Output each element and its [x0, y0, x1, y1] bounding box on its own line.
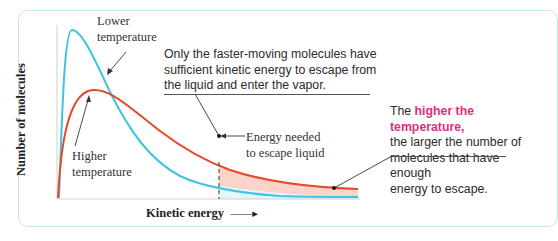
- right-callout-dot: [332, 186, 336, 190]
- right-callout-rule: [392, 156, 506, 157]
- callout-prefix: The: [390, 104, 415, 118]
- callout-line: the larger the number of: [390, 135, 534, 151]
- right-arrow-icon: ——▸: [230, 207, 258, 219]
- label-line: temperature: [72, 164, 132, 180]
- higher-temp-arrowhead: [86, 95, 91, 102]
- right-callout: The higher the temperature, the larger t…: [390, 104, 534, 197]
- x-axis-label-text: Kinetic energy: [146, 206, 224, 220]
- label-line: temperature: [97, 29, 157, 45]
- label-line: Energy needed: [246, 129, 324, 145]
- callout-line: the liquid and enter the vapor.: [164, 78, 377, 94]
- callout-line: Only the faster-moving molecules have: [164, 47, 377, 63]
- higher-temp-pointer: [75, 100, 88, 146]
- top-callout-pointer: [195, 94, 219, 136]
- energy-needed-label: Energy needed to escape liquid: [246, 129, 324, 161]
- higher-temperature-label: Higher temperature: [72, 148, 132, 180]
- x-axis-label: Kinetic energy ——▸: [146, 206, 258, 221]
- label-line: Higher: [72, 148, 132, 164]
- label-line: to escape liquid: [246, 145, 324, 161]
- lower-temperature-label: Lower temperature: [97, 13, 157, 45]
- right-callout-pointer: [334, 156, 392, 188]
- lower-temp-pointer: [109, 52, 126, 72]
- callout-line: The higher the temperature,: [390, 104, 534, 135]
- top-callout-rule: [164, 94, 370, 95]
- y-axis-label: Number of molecules: [14, 63, 29, 176]
- label-line: Lower: [97, 13, 157, 29]
- lower-temp-arrowhead: [107, 68, 113, 75]
- energy-needed-arrowhead: [220, 134, 226, 139]
- callout-line: energy to escape.: [390, 182, 534, 198]
- callout-line: sufficient kinetic energy to escape from: [164, 63, 377, 79]
- top-callout: Only the faster-moving molecules have su…: [164, 47, 377, 94]
